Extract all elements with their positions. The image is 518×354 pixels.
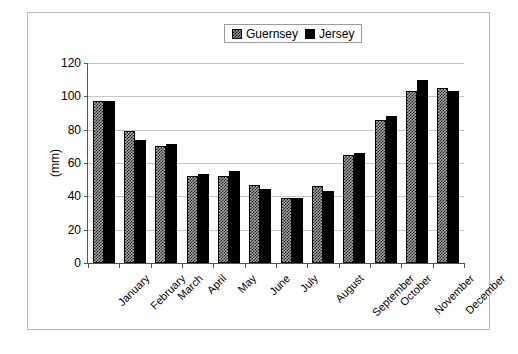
- y-tick-label: 100: [61, 89, 81, 103]
- x-tick-mark: [307, 263, 308, 268]
- bar-group: [339, 63, 370, 263]
- bar-guernsey-october: [375, 120, 386, 263]
- x-tick-mark: [276, 263, 277, 268]
- y-tick-label: 80: [68, 123, 81, 137]
- bar-group: [213, 63, 244, 263]
- bar-jersey-may: [229, 171, 240, 263]
- y-tick-label: 0: [74, 256, 81, 270]
- chart-legend: Guernsey Jersey: [224, 24, 362, 43]
- bar-jersey-march: [166, 144, 177, 263]
- bar-group: [401, 63, 432, 263]
- bar-guernsey-may: [218, 176, 229, 263]
- x-tick-mark: [339, 263, 340, 268]
- bar-guernsey-july: [281, 198, 292, 263]
- y-axis-title: (mm): [48, 149, 62, 177]
- bar-jersey-september: [354, 153, 365, 263]
- legend-label-guernsey: Guernsey: [246, 28, 298, 40]
- bar-guernsey-april: [187, 176, 198, 263]
- bar-groups: [88, 63, 464, 263]
- bar-guernsey-june: [249, 185, 260, 263]
- bar-guernsey-march: [155, 146, 166, 263]
- x-tick-mark: [433, 263, 434, 268]
- bar-jersey-april: [198, 174, 209, 263]
- x-tick-mark: [401, 263, 402, 268]
- bar-jersey-december: [448, 91, 459, 264]
- x-tick-mark: [464, 263, 465, 268]
- bar-guernsey-february: [124, 131, 135, 263]
- y-tick-label: 120: [61, 56, 81, 70]
- bar-group: [151, 63, 182, 263]
- y-tick-label: 40: [68, 189, 81, 203]
- bar-group: [88, 63, 119, 263]
- bar-jersey-october: [386, 116, 397, 263]
- bar-jersey-june: [260, 189, 271, 263]
- bar-jersey-november: [417, 80, 428, 263]
- x-tick-label: January: [115, 272, 151, 308]
- x-tick-label: May: [235, 272, 258, 295]
- bar-group: [433, 63, 464, 263]
- bar-group: [307, 63, 338, 263]
- x-tick-mark: [245, 263, 246, 268]
- bar-guernsey-december: [437, 88, 448, 263]
- y-tick-label: 60: [68, 156, 81, 170]
- bar-jersey-january: [104, 101, 115, 263]
- x-tick-label: April: [204, 272, 228, 296]
- bar-group: [276, 63, 307, 263]
- x-tick-mark: [151, 263, 152, 268]
- x-tick-label: June: [267, 272, 292, 297]
- legend-entry-guernsey: Guernsey: [232, 28, 298, 40]
- x-tick-mark: [370, 263, 371, 268]
- bar-guernsey-august: [312, 186, 323, 264]
- legend-entry-jersey: Jersey: [305, 28, 354, 40]
- checkered-gray-swatch-icon: [232, 29, 242, 39]
- bar-group: [370, 63, 401, 263]
- legend-label-jersey: Jersey: [319, 28, 354, 40]
- bar-group: [245, 63, 276, 263]
- bar-jersey-february: [135, 140, 146, 263]
- bar-group: [182, 63, 213, 263]
- x-tick-mark: [213, 263, 214, 268]
- bar-jersey-august: [323, 191, 334, 263]
- y-tick-label: 20: [68, 223, 81, 237]
- x-tick-mark: [182, 263, 183, 268]
- x-tick-label: July: [297, 272, 319, 294]
- bar-guernsey-january: [93, 101, 104, 263]
- solid-black-swatch-icon: [305, 29, 315, 39]
- x-tick-label: August: [333, 272, 366, 305]
- x-tick-mark: [88, 263, 89, 268]
- bar-guernsey-september: [343, 155, 354, 263]
- bar-group: [119, 63, 150, 263]
- x-tick-mark: [119, 263, 120, 268]
- chart-frame: Guernsey Jersey (mm) 020406080100120 Jan…: [27, 12, 490, 330]
- bar-guernsey-november: [406, 91, 417, 263]
- bar-jersey-july: [292, 198, 303, 263]
- plot-area: (mm) 020406080100120 JanuaryFebruaryMarc…: [87, 63, 464, 264]
